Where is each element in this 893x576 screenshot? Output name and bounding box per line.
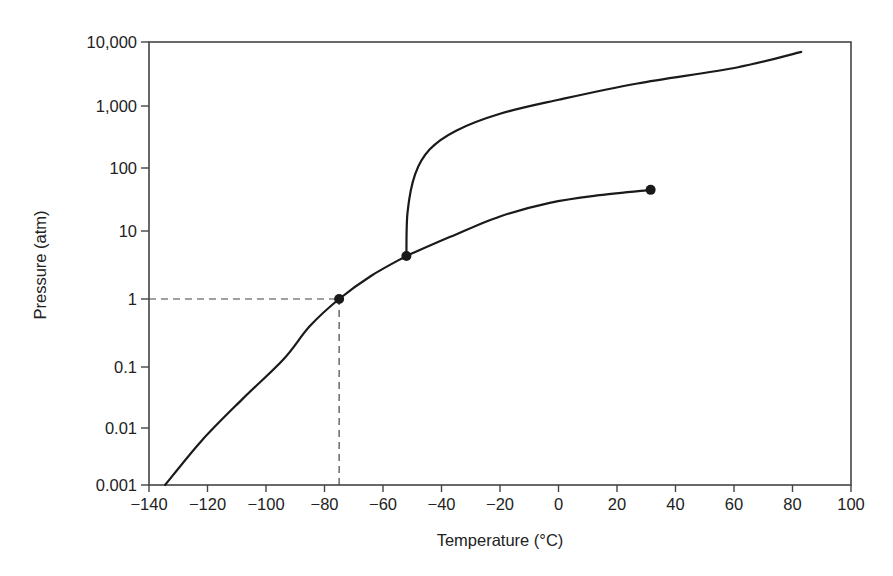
x-tick-label: −60	[369, 495, 397, 513]
x-tick-label: 20	[608, 495, 626, 513]
x-tick-label: 0	[554, 495, 563, 513]
y-axis-ticks: 0.0010.010.11101001,00010,000	[87, 33, 149, 494]
sublimation-curve	[165, 256, 406, 485]
x-tick-label: 40	[666, 495, 684, 513]
reference-dashed-lines	[149, 299, 339, 485]
x-tick-label: 80	[783, 495, 801, 513]
y-tick-label: 10,000	[87, 33, 137, 51]
triple-point-marker	[401, 251, 411, 261]
y-tick-label: 100	[109, 159, 137, 177]
x-tick-label: −120	[189, 495, 226, 513]
phase-boundary-curves	[165, 52, 801, 485]
plot-frame	[149, 42, 851, 485]
x-tick-label: 100	[837, 495, 865, 513]
plot-axes	[149, 42, 851, 485]
y-tick-label: 10	[119, 222, 137, 240]
sublimation-point-marker	[334, 294, 344, 304]
melting-curve	[406, 52, 801, 256]
vaporization-curve	[406, 190, 650, 256]
y-tick-label: 0.1	[114, 358, 137, 376]
y-tick-label: 1	[128, 290, 137, 308]
x-tick-label: −80	[311, 495, 339, 513]
y-tick-label: 1,000	[96, 97, 137, 115]
x-tick-label: −40	[428, 495, 456, 513]
critical-point-marker	[646, 185, 656, 195]
x-axis-title: Temperature (°C)	[437, 531, 564, 549]
x-axis-ticks: −140−120−100−80−60−40−20020406080100	[130, 485, 864, 513]
y-tick-label: 0.01	[105, 419, 137, 437]
x-tick-label: 60	[725, 495, 743, 513]
point-markers	[334, 185, 656, 304]
y-axis-title: Pressure (atm)	[31, 210, 49, 319]
x-tick-label: −100	[247, 495, 284, 513]
x-tick-label: −20	[486, 495, 514, 513]
x-tick-label: −140	[130, 495, 167, 513]
phase-diagram-chart: −140−120−100−80−60−40−20020406080100 0.0…	[0, 0, 893, 576]
y-tick-label: 0.001	[96, 476, 137, 494]
